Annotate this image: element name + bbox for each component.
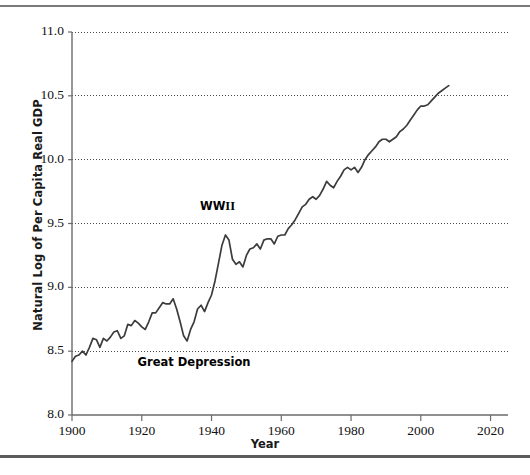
annotation-world-war-two: WWII xyxy=(200,199,235,214)
annotation-ww2-numeral: II xyxy=(225,199,235,213)
y-tick-label: 8.0 xyxy=(20,406,64,422)
y-axis-title: Natural Log of Per Capita Real GDP xyxy=(31,85,45,345)
plot-area xyxy=(0,0,530,475)
annotation-great-depression: Great Depression xyxy=(138,355,251,369)
gdp-line-series xyxy=(72,86,449,362)
chart-figure: 8.08.59.09.510.010.511.0 190019201940196… xyxy=(0,0,530,475)
annotation-ww2-prefix: WW xyxy=(200,199,225,213)
bottom-divider-rule xyxy=(0,455,530,458)
tick-marks-group xyxy=(68,32,491,421)
x-axis-title: Year xyxy=(0,437,530,451)
y-tick-label: 11.0 xyxy=(20,23,64,39)
gridlines-group xyxy=(72,32,508,351)
